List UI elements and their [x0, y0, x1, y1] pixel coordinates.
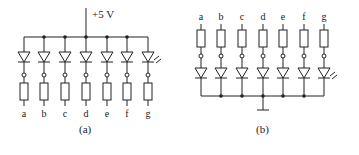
resistor-icon [238, 30, 246, 47]
terminal-circle [261, 54, 265, 58]
led-diode-icon [80, 52, 92, 62]
caption-b: (b) [256, 123, 269, 136]
segment-label-g: g [146, 108, 151, 119]
diagram-canvas: +5 V (a) (b) abcdefg abcdefg [0, 0, 359, 155]
junction-dot [42, 35, 46, 39]
junction-dot [125, 35, 129, 39]
segment-label-e: e [281, 11, 286, 22]
terminal-circle [281, 54, 285, 58]
segment-label-e: e [105, 108, 110, 119]
segment-label-c: c [63, 108, 68, 119]
terminal-circle [219, 54, 223, 58]
segment-labels-b: abcdefg [199, 11, 327, 22]
led-diode-icon [18, 52, 30, 62]
terminal-circle [125, 73, 129, 77]
resistor-icon [144, 83, 152, 100]
segment-label-b: b [42, 108, 47, 119]
resistor-icon [20, 83, 28, 100]
led-diode-icon [318, 68, 330, 78]
caption-a: (a) [79, 123, 92, 136]
junction-dot [84, 35, 88, 39]
figure-b [195, 24, 337, 110]
emission-arrow-icon [330, 72, 335, 76]
terminal-circle [146, 73, 150, 77]
led-diode-icon [121, 52, 133, 62]
resistor-icon [259, 30, 267, 47]
terminal-circle [63, 73, 67, 77]
resistor-icon [217, 30, 225, 47]
terminal-circle [105, 73, 109, 77]
junction-dot [63, 35, 67, 39]
emission-arrow-icon [154, 56, 159, 60]
led-diode-icon [142, 52, 154, 62]
segment-labels-a: abcdefg [22, 108, 151, 119]
led-diode-icon [38, 52, 50, 62]
led-diode-icon [236, 68, 248, 78]
terminal-circle [22, 73, 26, 77]
terminal-circle [84, 73, 88, 77]
terminal-circle [302, 54, 306, 58]
led-diode-icon [298, 68, 310, 78]
terminal-circle [199, 54, 203, 58]
resistor-icon [103, 83, 111, 100]
led-diode-icon [257, 68, 269, 78]
segment-label-a: a [199, 11, 204, 22]
resistor-icon [279, 30, 287, 47]
led-diode-icon [215, 68, 227, 78]
segment-label-b: b [219, 11, 224, 22]
resistor-icon [300, 30, 308, 47]
figure-a [18, 8, 161, 106]
led-diode-icon [59, 52, 71, 62]
segment-label-d: d [84, 108, 89, 119]
resistor-icon [40, 83, 48, 100]
junction-dot [105, 35, 109, 39]
segment-label-c: c [240, 11, 245, 22]
led-diode-icon [101, 52, 113, 62]
resistor-icon [61, 83, 69, 100]
led-diode-icon [195, 68, 207, 78]
terminal-circle [322, 54, 326, 58]
emission-arrow-icon [156, 59, 161, 63]
segment-label-g: g [322, 11, 327, 22]
emission-arrow-icon [332, 75, 337, 79]
resistor-icon [82, 83, 90, 100]
supply-label: +5 V [92, 8, 114, 20]
led-diode-icon [277, 68, 289, 78]
terminal-circle [42, 73, 46, 77]
terminal-circle [240, 54, 244, 58]
segment-label-d: d [261, 11, 266, 22]
segment-label-f: f [302, 11, 306, 22]
segment-label-a: a [22, 108, 27, 119]
resistor-icon [123, 83, 131, 100]
resistor-icon [320, 30, 328, 47]
segment-label-f: f [125, 108, 129, 119]
resistor-icon [197, 30, 205, 47]
